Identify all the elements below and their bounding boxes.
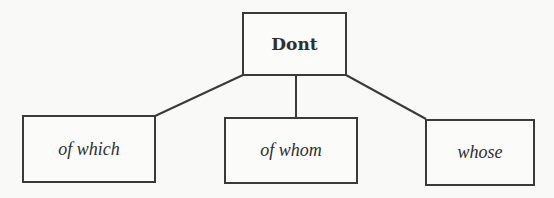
child-node-label: of whom [260,140,322,161]
connector-root-to-whose [346,75,426,119]
root-node-label: Dont [271,34,317,54]
connector-root-to-of-which [155,75,243,116]
child-node-of-whom: of whom [224,117,358,184]
root-node-dont: Dont [242,12,347,76]
child-node-of-which: of which [22,115,156,183]
child-node-label: whose [458,142,503,163]
child-node-label: of which [58,139,120,160]
child-node-whose: whose [425,119,535,186]
tree-diagram: Dont of which of whom whose [0,0,554,198]
